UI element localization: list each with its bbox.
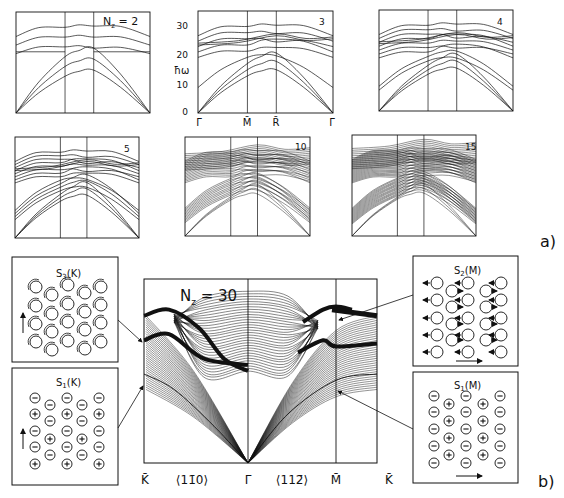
inset-s2-m: S2(M) <box>413 256 518 366</box>
panel-b-main <box>144 279 377 463</box>
part-b-label: b) <box>538 472 554 491</box>
inset-s3-k: S3(K) <box>12 257 118 362</box>
part-a-label: a) <box>540 232 556 251</box>
y-tick-30: 30 <box>177 21 189 31</box>
inset-s1-m: S1(M) <box>413 372 518 483</box>
panel-label-nz2: Nz = 2 <box>103 15 138 30</box>
panel-label-10: 10 <box>295 142 307 152</box>
dispersion-panel-10 <box>185 137 310 236</box>
panel-a-group <box>15 10 513 238</box>
dispersion-panel-15 <box>352 135 476 236</box>
panel-label-3: 3 <box>319 17 325 27</box>
x-tick-gamma-end: Γ̄ <box>329 117 335 128</box>
x-tick-mbar: M̄ <box>331 473 341 487</box>
x-tick-r: R̄ <box>273 116 280 128</box>
inset-title-s2m: S2(M) <box>454 265 481 278</box>
y-tick-10: 10 <box>177 80 189 90</box>
x-tick-kbar-left: K̄ <box>141 473 150 487</box>
y-tick-0: 0 <box>182 107 188 117</box>
x-tick-gamma: Γ̄ <box>196 117 202 128</box>
dispersion-panel-3 <box>198 11 333 113</box>
x-tick-kbar-right: K̄ <box>385 473 394 487</box>
x-tick-gamma-bar: Γ̄ <box>245 473 252 487</box>
figure-canvas: ħω 0 10 20 30 Γ̄ M̄ R̄ Γ̄ Nz = 2 3 4 5 1… <box>0 0 564 498</box>
inset-s1-k: S1(K) <box>12 368 118 485</box>
panel-label-15: 15 <box>465 142 476 152</box>
dispersion-panel-5 <box>15 137 139 238</box>
x-tick-110: ⟨11̄0⟩ <box>176 473 208 487</box>
panel-label-nz30: Nz = 30 <box>180 287 237 307</box>
panel-label-4: 4 <box>497 17 503 27</box>
x-tick-m: M̄ <box>243 116 252 128</box>
panel-label-5: 5 <box>124 144 130 154</box>
dispersion-panel-4 <box>379 10 513 111</box>
y-tick-20: 20 <box>177 50 189 60</box>
y-axis-label: ħω <box>174 65 189 76</box>
x-tick-112: ⟨112̄⟩ <box>276 473 308 487</box>
inset-title-s1k: S1(K) <box>56 377 81 390</box>
